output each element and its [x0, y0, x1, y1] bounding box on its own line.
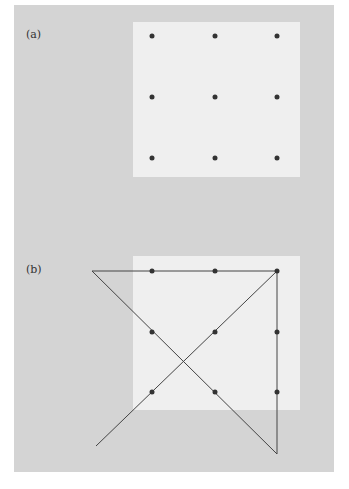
- dot: [213, 269, 218, 274]
- nine-dot-puzzle-drawing: [0, 0, 349, 489]
- four-line-solution-path: [92, 271, 277, 454]
- dot: [275, 34, 280, 39]
- dot: [275, 269, 280, 274]
- dot: [150, 390, 155, 395]
- dot: [275, 390, 280, 395]
- dot: [213, 390, 218, 395]
- dot: [275, 95, 280, 100]
- dot: [275, 156, 280, 161]
- dot: [275, 330, 280, 335]
- dot: [150, 34, 155, 39]
- dot: [213, 34, 218, 39]
- dot: [150, 95, 155, 100]
- dot: [150, 156, 155, 161]
- dot: [213, 330, 218, 335]
- dot: [150, 330, 155, 335]
- dot: [213, 156, 218, 161]
- panel-a-dot-grid: [150, 34, 280, 161]
- dot: [213, 95, 218, 100]
- dot: [150, 269, 155, 274]
